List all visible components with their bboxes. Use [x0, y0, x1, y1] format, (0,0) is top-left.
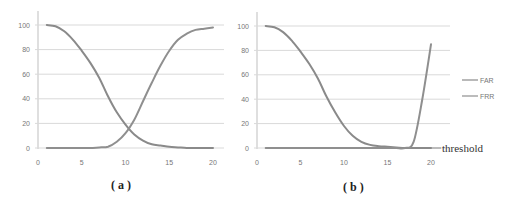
threshold-label: threshold: [442, 142, 483, 154]
x-tick-label: 20: [209, 159, 217, 166]
panel-label-b: ( b ): [343, 180, 364, 194]
x-tick-label: 15: [384, 159, 392, 166]
x-tick-label: 5: [299, 159, 303, 166]
x-tick-label: 20: [427, 159, 435, 166]
y-tick-label: 60: [241, 71, 249, 78]
y-tick-label: 0: [26, 145, 30, 152]
y-tick-label: 80: [241, 47, 249, 54]
legend-frr-label: FRR: [480, 93, 494, 100]
series-line-far: [266, 26, 431, 148]
y-tick-label: 80: [22, 46, 30, 53]
y-tick-label: 40: [241, 96, 249, 103]
chart-panel-b: 02040608010005101520: [237, 12, 450, 166]
y-tick-label: 20: [22, 120, 30, 127]
x-tick-label: 0: [36, 159, 40, 166]
chart-legend: FAR FRR: [462, 77, 494, 100]
x-tick-label: 5: [80, 159, 84, 166]
x-tick-label: 10: [122, 159, 130, 166]
y-tick-label: 100: [237, 23, 249, 30]
y-tick-label: 20: [241, 120, 249, 127]
series-line-far: [47, 25, 213, 148]
x-tick-label: 10: [340, 159, 348, 166]
legend-far-label: FAR: [480, 77, 494, 84]
y-tick-label: 100: [18, 22, 30, 29]
y-tick-label: 60: [22, 71, 30, 78]
y-tick-label: 0: [245, 145, 249, 152]
y-tick-label: 40: [22, 95, 30, 102]
chart-panel-a: 02040608010005101520: [18, 11, 224, 166]
x-tick-label: 0: [255, 159, 259, 166]
far-frr-figure: 02040608010005101520 0204060801000510152…: [0, 0, 508, 202]
panel-label-a: ( a ): [111, 178, 131, 192]
x-tick-label: 15: [165, 159, 173, 166]
